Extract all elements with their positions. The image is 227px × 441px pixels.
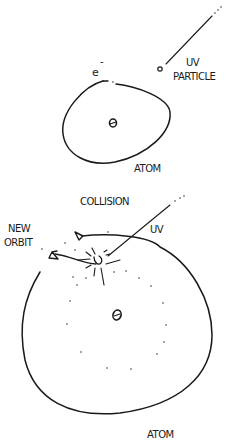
- electron-dot: [112, 81, 114, 83]
- bottom-panel: COLLISION UV NEW ORBIT ATOM: [4, 195, 212, 440]
- uv-label-bottom: UV: [150, 224, 164, 235]
- electron-charge-label: -: [100, 56, 104, 67]
- outer-orbit: [22, 235, 212, 414]
- collision-label: COLLISION: [80, 196, 129, 207]
- new-orbit-arrow-head-icon: [49, 251, 58, 259]
- atom-label-bottom: ATOM: [147, 429, 174, 440]
- trajectory-dot: [217, 9, 219, 11]
- trajectory-dot: [179, 197, 181, 199]
- atom-label-top: ATOM: [134, 163, 161, 174]
- atom-uv-collision-diagram: e - UV PARTICLE ATOM COLLISION UV NEW OR…: [0, 0, 227, 441]
- new-orbit-label-line2: ORBIT: [4, 237, 34, 248]
- trajectory-dot: [174, 200, 176, 202]
- nucleus-fill-mark: [110, 122, 116, 124]
- collision-burst-icon: [78, 248, 120, 285]
- uv-label: UV: [186, 57, 200, 68]
- orbit-arrow-head-icon: [75, 232, 83, 240]
- trajectory-dot: [183, 195, 185, 197]
- particle-label: PARTICLE: [173, 71, 216, 82]
- new-orbit-label-line1: NEW: [8, 223, 31, 234]
- uv-particle-icon: [158, 67, 162, 71]
- trajectory-dot: [214, 12, 216, 14]
- top-panel: e - UV PARTICLE ATOM: [63, 6, 222, 174]
- nucleus-fill-mark: [114, 314, 120, 316]
- electron-label: e: [92, 66, 99, 79]
- trajectory-dot: [220, 6, 222, 8]
